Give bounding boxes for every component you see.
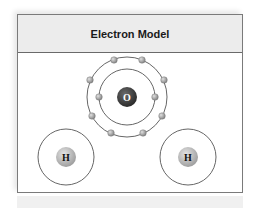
svg-text:H: H <box>184 152 192 163</box>
bottom-bar <box>17 196 243 208</box>
svg-text:H: H <box>62 152 70 163</box>
panel-header: Electron Model <box>18 15 242 53</box>
panel-title: Electron Model <box>91 28 170 40</box>
hydrogen-nucleus-left: H <box>56 147 76 167</box>
svg-text:O: O <box>123 92 131 103</box>
water-molecule-diagram: O H H <box>18 53 244 193</box>
oxygen-nucleus: O <box>117 87 137 107</box>
hydrogen-nucleus-right: H <box>178 147 198 167</box>
electron-model-panel: Electron Model O <box>17 14 243 193</box>
